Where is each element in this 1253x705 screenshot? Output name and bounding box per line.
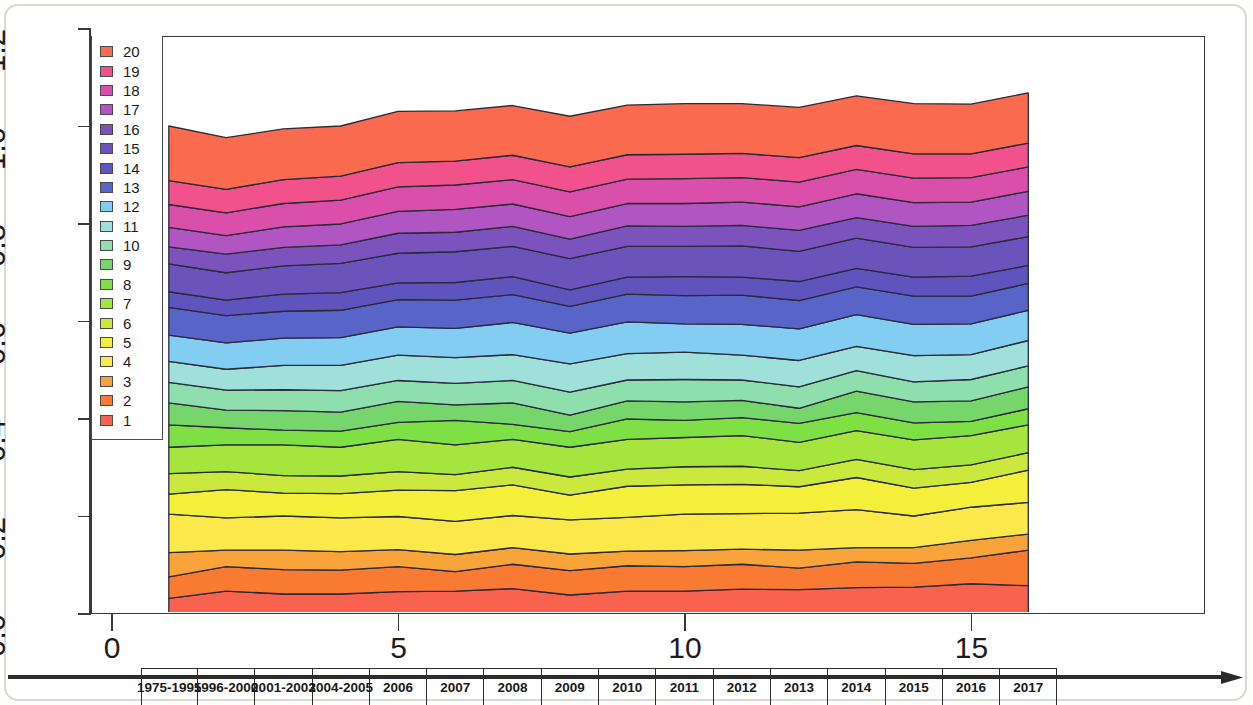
legend-label: 3	[123, 374, 131, 389]
category-label-cell: 2010	[599, 669, 656, 705]
category-label-cell: 2016	[943, 669, 1000, 705]
plot-inner	[92, 37, 1204, 613]
legend-swatch-icon	[100, 221, 113, 232]
legend-label: 17	[123, 102, 140, 117]
y-tick-label: 0.8	[0, 224, 13, 267]
legend-item[interactable]: 15	[92, 139, 162, 158]
x-tick-mark	[398, 614, 400, 631]
legend-swatch-icon	[100, 124, 113, 135]
category-label-cell: 2009	[542, 669, 599, 705]
category-label-cell: 2017	[1000, 669, 1057, 705]
y-tick-mark	[78, 28, 91, 30]
legend-swatch-icon	[100, 182, 113, 193]
legend-item[interactable]: 11	[92, 217, 162, 236]
stacked-area-svg	[92, 37, 1203, 612]
legend-swatch-icon	[100, 104, 113, 115]
y-tick-label: 1.2	[0, 29, 13, 72]
legend-item[interactable]: 2	[92, 391, 162, 410]
legend-label: 11	[123, 219, 139, 234]
category-label-cell: 1975-1995	[141, 669, 198, 705]
x-tick-mark	[971, 614, 973, 631]
legend-swatch-icon	[100, 356, 113, 367]
legend-label: 13	[123, 180, 140, 195]
y-tick-label: 1.0	[0, 127, 13, 170]
x-tick-label: 15	[955, 631, 988, 665]
x-tick-label: 10	[668, 631, 701, 665]
legend-item[interactable]: 5	[92, 333, 162, 352]
legend-label: 19	[123, 64, 140, 79]
legend-label: 4	[123, 354, 131, 369]
legend-item[interactable]: 3	[92, 372, 162, 391]
legend-item[interactable]: 17	[92, 100, 162, 119]
legend-item[interactable]: 1	[92, 410, 162, 429]
x-tick-label: 0	[104, 631, 121, 665]
y-tick-label: 0.2	[0, 517, 13, 560]
y-tick-label: 0.6	[0, 322, 13, 365]
legend: 2019181716151413121110987654321	[91, 36, 163, 440]
legend-item[interactable]: 7	[92, 294, 162, 313]
y-tick-mark	[78, 126, 91, 128]
legend-swatch-icon	[100, 85, 113, 96]
legend-label: 15	[123, 141, 140, 156]
legend-item[interactable]: 10	[92, 236, 162, 255]
y-tick-mark	[78, 223, 91, 225]
category-label-cell: 2014	[828, 669, 885, 705]
legend-item[interactable]: 4	[92, 352, 162, 371]
legend-label: 7	[123, 296, 131, 311]
legend-item[interactable]: 16	[92, 120, 162, 139]
y-tick-label: 0.4	[0, 419, 13, 462]
category-label-cell: 2012	[714, 669, 771, 705]
y-axis: 1.21.00.80.60.40.20.0	[0, 0, 91, 705]
legend-swatch-icon	[100, 240, 113, 251]
legend-swatch-icon	[100, 201, 113, 212]
legend-swatch-icon	[100, 163, 113, 174]
legend-swatch-icon	[100, 415, 113, 426]
category-label-table: 1975-19951996-20002001-20032004-20052006…	[141, 668, 1058, 705]
legend-swatch-icon	[100, 395, 113, 406]
x-tick-group: 051015	[0, 614, 1253, 654]
legend-label: 12	[123, 199, 140, 214]
y-tick-mark	[78, 321, 91, 323]
x-tick-mark	[684, 614, 686, 631]
legend-label: 20	[123, 44, 140, 59]
legend-swatch-icon	[100, 298, 113, 309]
y-tick-mark	[78, 418, 91, 420]
x-tick-mark	[111, 614, 113, 631]
legend-item[interactable]: 20	[92, 42, 162, 61]
category-label-cell: 1996-2000	[198, 669, 255, 705]
legend-item[interactable]: 19	[92, 61, 162, 80]
legend-item[interactable]: 14	[92, 158, 162, 177]
legend-swatch-icon	[100, 337, 113, 348]
legend-item[interactable]: 18	[92, 81, 162, 100]
legend-label: 1	[123, 413, 131, 428]
legend-label: 9	[123, 257, 131, 272]
plot-area	[91, 36, 1205, 614]
legend-label: 2	[123, 393, 131, 408]
legend-label: 5	[123, 335, 131, 350]
legend-item[interactable]: 9	[92, 255, 162, 274]
chart-page: 1.21.00.80.60.40.20.0 201918171615141312…	[0, 0, 1253, 705]
category-label-cell: 2004-2005	[313, 669, 370, 705]
legend-swatch-icon	[100, 66, 113, 77]
legend-swatch-icon	[100, 143, 113, 154]
category-label-cell: 2006	[370, 669, 427, 705]
legend-label: 6	[123, 316, 131, 331]
legend-swatch-icon	[100, 376, 113, 387]
category-label-cell: 2007	[427, 669, 484, 705]
legend-item[interactable]: 12	[92, 197, 162, 216]
legend-item[interactable]: 6	[92, 313, 162, 332]
legend-label: 10	[123, 238, 140, 253]
legend-label: 16	[123, 122, 140, 137]
category-label-cell: 2011	[656, 669, 713, 705]
y-tick-mark	[78, 516, 91, 518]
x-tick-label: 5	[390, 631, 407, 665]
legend-swatch-icon	[100, 318, 113, 329]
legend-item[interactable]: 8	[92, 275, 162, 294]
category-label-cell: 2015	[886, 669, 943, 705]
category-label-cell: 2001-2003	[255, 669, 312, 705]
legend-label: 18	[123, 83, 140, 98]
category-label-cell: 2008	[484, 669, 541, 705]
legend-swatch-icon	[100, 46, 113, 57]
legend-swatch-icon	[100, 279, 113, 290]
legend-item[interactable]: 13	[92, 178, 162, 197]
